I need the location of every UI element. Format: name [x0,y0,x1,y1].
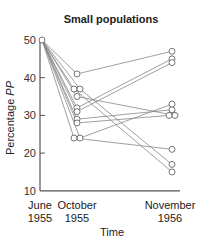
data-point-marker [169,60,175,66]
y-tick-label: 50 [24,34,36,46]
data-point-marker [71,135,77,141]
data-point-marker [39,37,45,43]
data-point-marker [77,135,83,141]
x-tick-label-year: 1955 [65,212,89,224]
data-point-marker [74,120,80,126]
y-tick-label: 40 [24,72,36,84]
data-point-marker [74,94,80,100]
y-tick-label: 10 [24,185,36,197]
x-tick-label-year: 1956 [158,212,182,224]
series-line [42,40,172,149]
x-tick-label: November [145,199,196,211]
data-point-marker [71,86,77,92]
x-tick-label-year: 1955 [28,212,52,224]
y-tick-label: 20 [24,147,36,159]
data-point-marker [172,112,178,118]
data-point-marker [166,112,172,118]
series-line [42,40,175,115]
series-line [42,40,172,108]
data-point-marker [169,169,175,175]
axes: 1020304050 [24,34,180,197]
series-line [42,40,172,138]
data-lines [42,40,175,172]
data-point-marker [74,109,80,115]
data-point-marker [169,101,175,107]
data-point-marker [169,107,175,113]
data-point-marker [74,71,80,77]
x-tick-label: October [57,199,96,211]
y-tick-label: 30 [24,109,36,121]
x-tick-label: June [28,199,52,211]
data-point-marker [169,161,175,167]
plot-area: 1020304050 June1955October1955November19… [0,0,206,248]
data-point-marker [169,48,175,54]
x-axis-label: Time [100,226,124,238]
data-point-marker [169,146,175,152]
data-point-marker [77,86,83,92]
x-tick-labels: June1955October1955November1956 [28,199,196,224]
series-line [42,40,172,172]
